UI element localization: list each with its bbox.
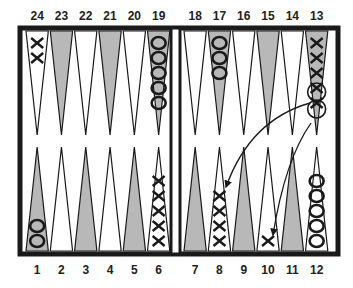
board-bar <box>171 28 180 254</box>
point-label-2: 2 <box>49 263 73 277</box>
point-label-14: 14 <box>280 9 304 23</box>
point-label-6: 6 <box>147 263 171 277</box>
point-label-12: 12 <box>305 263 329 277</box>
point-label-15: 15 <box>256 9 280 23</box>
point-label-23: 23 <box>49 9 73 23</box>
point-label-1: 1 <box>25 263 49 277</box>
point-label-3: 3 <box>74 263 98 277</box>
point-label-8: 8 <box>207 263 231 277</box>
point-label-7: 7 <box>183 263 207 277</box>
point-label-21: 21 <box>98 9 122 23</box>
point-label-5: 5 <box>122 263 146 277</box>
point-label-4: 4 <box>98 263 122 277</box>
point-label-13: 13 <box>305 9 329 23</box>
point-label-18: 18 <box>183 9 207 23</box>
backgammon-board <box>0 0 353 288</box>
point-label-24: 24 <box>25 9 49 23</box>
point-label-16: 16 <box>232 9 256 23</box>
point-label-17: 17 <box>207 9 231 23</box>
point-label-11: 11 <box>280 263 304 277</box>
point-label-20: 20 <box>122 9 146 23</box>
point-label-9: 9 <box>232 263 256 277</box>
point-label-22: 22 <box>74 9 98 23</box>
point-label-19: 19 <box>147 9 171 23</box>
point-label-10: 10 <box>256 263 280 277</box>
